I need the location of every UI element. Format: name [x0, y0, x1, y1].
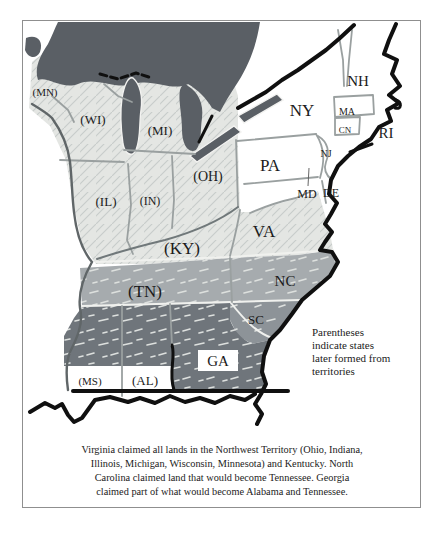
state-label-nh: NH: [347, 73, 369, 89]
state-label-in: (IN): [140, 194, 161, 208]
annotation-line-4: territories: [312, 365, 355, 377]
caption-line-4: claimed part of what would become Alabam…: [96, 486, 348, 497]
state-label-de: DE: [323, 186, 339, 200]
state-label-il: (IL): [96, 194, 117, 209]
state-label-mn: (MN): [32, 86, 57, 99]
state-label-ma: MA: [339, 106, 356, 117]
state-label-ky: (KY): [164, 239, 200, 258]
state-label-va: VA: [253, 222, 276, 241]
state-label-md: MD: [297, 187, 317, 201]
state-label-cn: CN: [339, 125, 352, 135]
state-label-ga: GA: [207, 353, 229, 369]
caption-line-3: Carolina claimed land that would become …: [95, 472, 350, 483]
annotation-line-1: Parentheses: [312, 326, 364, 338]
state-label-nj: NJ: [320, 148, 331, 159]
claims-map: (MN) (WI) (MI) (OH) (IL) (IN) (KY) (TN) …: [0, 0, 446, 542]
state-label-wi: (WI): [80, 112, 105, 127]
caption-line-1: Virginia claimed all lands in the Northw…: [81, 444, 362, 456]
state-label-al: (AL): [132, 373, 158, 388]
caption-line-2: Illinois, Michigan, Wisconsin, Minnesota…: [91, 458, 354, 470]
state-label-pa: PA: [260, 156, 281, 175]
state-label-ny: NY: [290, 101, 315, 120]
state-label-tn: (TN): [128, 282, 162, 301]
annotation-line-2: indicate states: [312, 339, 374, 351]
state-label-ri: RI: [379, 125, 394, 141]
state-label-oh: (OH): [193, 169, 223, 185]
annotation-line-3: later formed from: [312, 352, 391, 364]
state-label-mi: (MI): [148, 123, 173, 138]
state-label-ms: (MS): [78, 375, 102, 388]
region-canada-west-fragment: [25, 37, 41, 57]
lake-michigan: [121, 78, 142, 155]
state-label-sc: SC: [248, 312, 264, 327]
state-label-nc: NC: [275, 273, 296, 289]
